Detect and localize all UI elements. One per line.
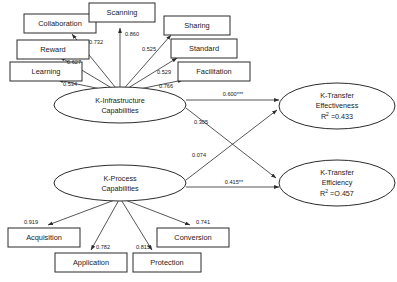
r2-value-efficiency: =O.457 xyxy=(328,189,354,198)
latent-label-infrastructure-line1: K-Infrastructure xyxy=(95,96,145,105)
sem-path-diagram: Collaboration Reward Learning Scanning S… xyxy=(0,0,397,282)
loading-label-collaboration: 0.732 xyxy=(89,39,103,45)
r-squared-efficiency: R2 =O.457 xyxy=(320,188,354,198)
indicator-label-collaboration: Collaboration xyxy=(38,19,82,28)
loading-label-acquisition: 0.919 xyxy=(24,219,38,225)
loading-label-learning: 0.534 xyxy=(63,81,77,87)
indicator-label-scanning: Scanning xyxy=(107,8,138,17)
latent-label-efficiency-line1: K-Transfer xyxy=(320,168,354,177)
indicator-scanning: Scanning xyxy=(89,3,155,22)
path-process-application xyxy=(91,198,120,250)
loading-label-sharing: 0.525 xyxy=(142,46,156,52)
path-process-acquisition xyxy=(48,198,120,225)
indicator-label-facilitation: Facilitation xyxy=(196,67,231,76)
indicator-acquisition: Acquisition xyxy=(8,228,80,247)
latent-label-effectiveness-line2: Effectiveness xyxy=(316,101,359,110)
latent-k-transfer-efficiency: K-Transfer Efficiency R2 =O.457 xyxy=(279,160,395,206)
latent-k-process-capabilities: K-Process Capabilities xyxy=(54,165,186,201)
indicator-standard: Standard xyxy=(171,39,237,58)
coefficient-process-to-effectiveness: 0.074 xyxy=(192,152,206,158)
r-squared-effectiveness: R2 =0.433 xyxy=(321,111,353,121)
structural-paths xyxy=(186,100,279,187)
latent-label-process-line2: Capabilities xyxy=(101,184,139,193)
indicator-collaboration: Collaboration xyxy=(24,14,96,33)
latent-label-efficiency-line2: Efficiency xyxy=(322,178,353,187)
indicator-label-reward: Reward xyxy=(40,45,65,54)
coefficient-infra-to-effectiveness: 0.600*** xyxy=(223,91,244,97)
r2-value-effectiveness: =0.433 xyxy=(329,112,353,121)
indicator-label-application: Application xyxy=(73,258,109,267)
coefficient-infra-to-efficiency: 0.305 xyxy=(194,119,208,125)
indicator-conversion: Conversion xyxy=(157,228,229,247)
path-process-conversion xyxy=(120,198,190,225)
loading-label-conversion: 0.741 xyxy=(196,219,210,225)
indicator-label-conversion: Conversion xyxy=(174,233,211,242)
latent-label-effectiveness-line1: K-Transfer xyxy=(320,91,354,100)
latent-k-transfer-effectiveness: K-Transfer Effectiveness R2 =0.433 xyxy=(279,83,395,129)
indicator-label-sharing: Sharing xyxy=(184,21,209,30)
loading-label-protection: 0.815 xyxy=(136,244,150,250)
indicator-protection: Protection xyxy=(133,253,201,272)
loading-label-application: 0.782 xyxy=(96,244,110,250)
indicator-label-standard: Standard xyxy=(189,44,219,53)
indicator-reward: Reward xyxy=(17,40,89,59)
coefficient-process-to-efficiency: 0.415** xyxy=(225,179,244,185)
latent-label-process-line1: K-Process xyxy=(103,174,137,183)
loading-label-facilitation: 0.766 xyxy=(159,83,173,89)
loading-label-scanning: 0.860 xyxy=(125,31,139,37)
latent-k-infrastructure-capabilities: K-Infrastructure Capabilities xyxy=(54,87,186,123)
indicator-application: Application xyxy=(55,253,127,272)
indicator-label-acquisition: Acquisition xyxy=(26,233,62,242)
indicator-label-protection: Protection xyxy=(150,258,183,267)
latent-label-infrastructure-line2: Capabilities xyxy=(101,106,139,115)
loading-label-standard: 0.529 xyxy=(157,69,171,75)
loading-label-reward: 0.627 xyxy=(67,59,81,65)
path-process-protection xyxy=(120,198,152,250)
indicator-facilitation: Facilitation xyxy=(178,62,250,81)
indicator-label-learning: Learning xyxy=(32,67,61,76)
indicator-sharing: Sharing xyxy=(164,16,230,35)
